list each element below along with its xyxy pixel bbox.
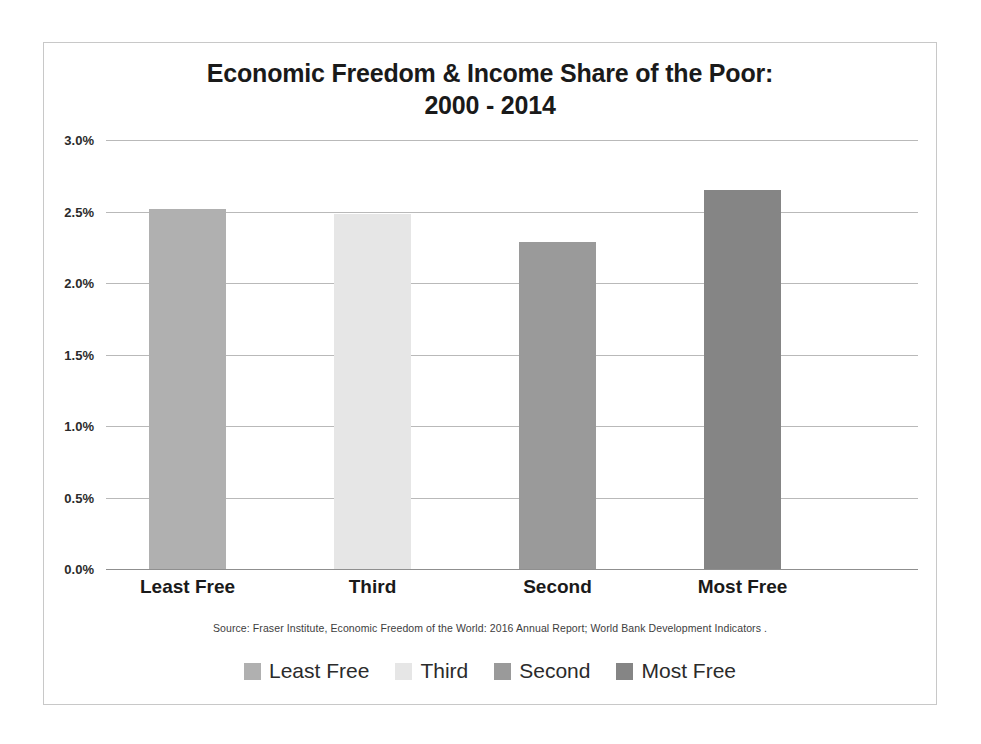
y-axis-tick-label: 1.0%: [64, 419, 94, 434]
y-axis-tick-label: 2.5%: [64, 204, 94, 219]
x-axis-tick-label: Most Free: [663, 576, 823, 598]
x-axis-tick-labels: Least FreeThirdSecondMost Free: [106, 576, 918, 604]
x-axis-tick-label: Least Free: [108, 576, 268, 598]
y-axis-tick-label: 1.5%: [64, 347, 94, 362]
plot-area: 3.0%2.5%2.0%1.5%1.0%0.5%0.0%: [106, 140, 918, 569]
y-axis-tick-label: 3.0%: [64, 133, 94, 148]
x-axis-tick-label: Second: [478, 576, 638, 598]
y-axis-tick-label: 0.5%: [64, 490, 94, 505]
chart-title: Economic Freedom & Income Share of the P…: [44, 57, 936, 121]
legend: Least FreeThirdSecondMost Free: [44, 659, 936, 683]
bar: [149, 209, 226, 569]
chart-title-line-2: 2000 - 2014: [44, 89, 936, 121]
legend-item[interactable]: Most Free: [616, 659, 736, 683]
legend-swatch-icon: [494, 663, 511, 680]
source-note: Source: Fraser Institute, Economic Freed…: [44, 622, 936, 634]
bar: [704, 190, 781, 569]
legend-label: Most Free: [641, 659, 736, 683]
legend-label: Least Free: [269, 659, 369, 683]
legend-label: Third: [420, 659, 468, 683]
legend-swatch-icon: [395, 663, 412, 680]
x-axis-baseline: [106, 569, 918, 570]
chart-title-line-1: Economic Freedom & Income Share of the P…: [207, 59, 773, 87]
legend-item[interactable]: Second: [494, 659, 590, 683]
legend-label: Second: [519, 659, 590, 683]
chart-frame: Economic Freedom & Income Share of the P…: [43, 42, 937, 705]
legend-item[interactable]: Least Free: [244, 659, 369, 683]
bar: [519, 242, 596, 569]
y-axis-tick-label: 2.0%: [64, 276, 94, 291]
legend-swatch-icon: [616, 663, 633, 680]
bar: [334, 214, 411, 569]
legend-swatch-icon: [244, 663, 261, 680]
legend-item[interactable]: Third: [395, 659, 468, 683]
y-axis-tick-label: 0.0%: [64, 562, 94, 577]
bars: [106, 140, 918, 569]
x-axis-tick-label: Third: [293, 576, 453, 598]
